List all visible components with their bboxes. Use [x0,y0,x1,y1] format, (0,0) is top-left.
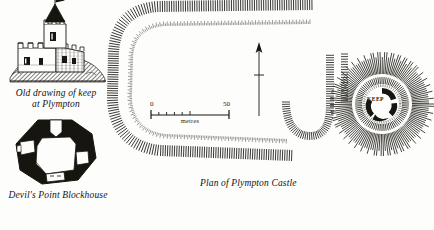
north-arrow [252,42,266,116]
figure-sheet: Old drawing of keep at Plympton Devil's … [0,0,434,230]
blockhouse-main-chamber [36,137,76,174]
scale-bar: 0 50 metres [150,100,230,126]
keep-caption-line1: Old drawing of keep [4,88,108,99]
keep-hall-block [18,48,56,72]
keep-engraving-figure [8,2,108,86]
shell-keep-wall [366,88,398,121]
motte-figure [332,44,432,162]
blockhouse-caption: Devil's Point Blockhouse [0,190,116,201]
blockhouse-west-embrasure [20,140,35,155]
keep-caption-line2: at Plympton [4,99,108,110]
scale-minor-ticks [159,111,190,115]
scale-unit-label: metres [150,117,230,124]
pennant-flag [56,0,65,3]
keep-window [24,57,30,65]
blockhouse-figure [12,118,104,188]
motte-radial-hachures [330,52,434,156]
castle-plan-figure [112,2,357,172]
keep-label: KEEP [367,96,384,102]
blockhouse-south-gunport [46,172,65,182]
keep-tower-roof [45,4,65,22]
blockhouse-east-embrasure [76,151,89,165]
keep-tower-window [50,32,56,41]
keep-window [39,58,43,65]
scale-min-label: 0 [150,100,154,108]
scale-max-label: 50 [223,100,230,108]
castle-plan-caption: Plan of Plympton Castle [200,178,297,189]
